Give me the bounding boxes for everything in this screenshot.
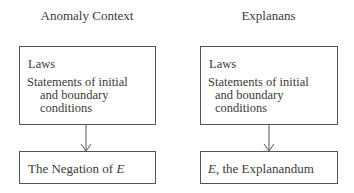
explanandum-box: E, the Explanandum <box>200 151 338 184</box>
explanandum-suffix: , the Explanandum <box>216 161 314 176</box>
explanans-heading: Explanans <box>200 8 337 24</box>
negation-of-e-label: The Negation of E <box>28 162 124 175</box>
explanandum-label: E, the Explanandum <box>208 162 314 175</box>
statements-line-3: conditions <box>40 102 92 115</box>
statements-line-3: conditions <box>215 102 267 115</box>
anomaly-context-heading: Anomaly Context <box>19 8 155 24</box>
e-variable: E <box>116 161 124 176</box>
e-variable: E <box>208 161 216 176</box>
arrow-down-icon <box>263 124 275 152</box>
laws-label: Laws <box>209 58 236 71</box>
laws-label: Laws <box>28 58 55 71</box>
anomaly-premises-box: Laws Statements of initial and boundary … <box>19 46 156 125</box>
negation-prefix: The Negation of <box>28 161 116 176</box>
negation-of-e-box: The Negation of E <box>19 151 156 184</box>
arrow-down-icon <box>80 124 92 152</box>
explanans-premises-box: Laws Statements of initial and boundary … <box>200 46 338 125</box>
